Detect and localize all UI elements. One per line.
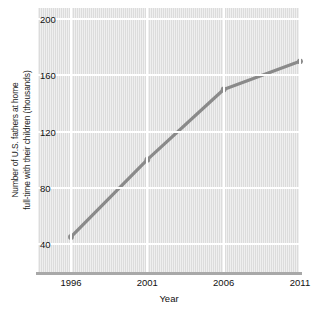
x-gridline <box>146 8 148 272</box>
y-axis-title: Number of U.S. fathers at home full-time… <box>6 8 36 272</box>
line-chart-figure: Number of U.S. fathers at home full-time… <box>0 0 313 311</box>
y-tick-label: 40 <box>38 238 70 249</box>
y-axis-title-line-2: full-time with their children (thousands… <box>21 70 33 209</box>
x-tick-label: 1996 <box>60 277 81 288</box>
y-gridline <box>38 131 300 133</box>
y-tick-label: 160 <box>38 70 70 81</box>
y-tick-label: 200 <box>38 14 70 25</box>
plot-area: 20016012080401996200120062011 <box>38 8 300 272</box>
y-gridline <box>38 74 300 76</box>
y-gridline <box>38 243 300 245</box>
y-tick-label: 80 <box>38 182 70 193</box>
x-gridline <box>70 8 72 272</box>
x-gridline <box>223 8 225 272</box>
x-tick-label: 2006 <box>213 277 234 288</box>
y-tick-label: 120 <box>38 126 70 137</box>
x-tick-label: 2001 <box>137 277 158 288</box>
y-gridline <box>38 187 300 189</box>
y-gridline <box>38 18 300 20</box>
x-gridline <box>299 8 301 272</box>
series-layer <box>38 8 300 272</box>
x-tick-label: 2011 <box>290 277 310 288</box>
series-line <box>71 61 300 237</box>
x-axis-rule <box>36 272 302 275</box>
x-axis-title: Year <box>38 293 300 304</box>
series-markers <box>68 58 303 239</box>
y-axis-title-line-1: Number of U.S. fathers at home <box>10 70 22 209</box>
